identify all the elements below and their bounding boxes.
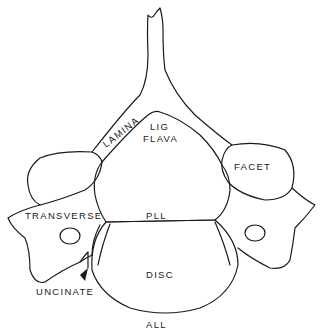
right-transverse-outline: [238, 188, 315, 268]
label-facet: FACET: [234, 161, 271, 172]
right-foramen: [245, 225, 265, 241]
label-transverse: TRANSVERSE: [25, 210, 102, 221]
label-flava: FLAVA: [143, 133, 178, 144]
label-lamina: LAMINA: [100, 114, 141, 149]
left-foramen: [60, 228, 80, 244]
vertebra-diagram: LAMINA LIG FLAVA FACET TRANSVERSE PLL DI…: [0, 0, 322, 335]
disc-right-inner: [215, 222, 230, 265]
arrowhead-icon: [80, 268, 88, 281]
label-uncinate: UNCINATE: [36, 286, 94, 297]
label-disc: DISC: [146, 269, 174, 280]
disc-outline: [92, 220, 238, 313]
label-all: ALL: [146, 319, 167, 330]
label-lig: LIG: [150, 121, 169, 132]
label-pll: PLL: [146, 210, 167, 221]
left-articular-outline: [28, 152, 103, 205]
